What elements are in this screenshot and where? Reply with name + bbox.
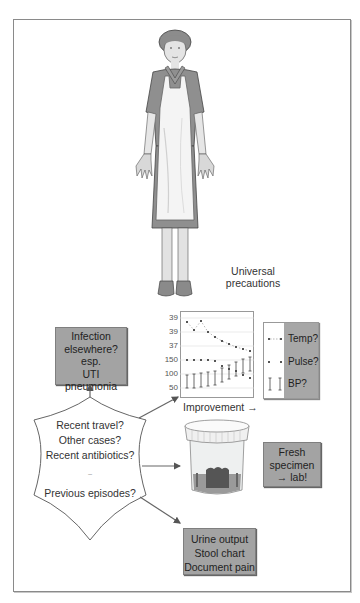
legend-item-pulse: Pulse? (264, 354, 318, 370)
box-line: → lab! (264, 471, 320, 484)
y-tick: 50 (158, 383, 178, 392)
chart-legend: Temp? Pulse? BP? (263, 322, 319, 399)
specimen-jar-illustration (182, 418, 252, 498)
specimen-box: Fresh specimen → lab! (263, 442, 321, 487)
box-line: Document pain (184, 560, 255, 574)
box-line: Urine output (184, 532, 255, 546)
connector-arrows (0, 0, 360, 603)
monitoring-box: Urine output Stool chart Document pain (183, 528, 256, 575)
center-questions: Recent travel? Other cases? Recent antib… (40, 418, 140, 501)
vitals-chart (180, 311, 255, 399)
question-line: Recent antibiotics? (40, 448, 140, 463)
legend-label: BP? (288, 378, 307, 389)
line-cross-marker-icon (267, 336, 283, 342)
box-line: Fresh (264, 446, 320, 459)
y-tick: 150 (158, 355, 178, 364)
dot-marker-icon (267, 359, 283, 365)
legend-label: Pulse? (288, 356, 319, 367)
question-line: Previous episodes? (40, 486, 140, 501)
legend-label: Temp? (288, 333, 318, 344)
separator-mark: ~ (40, 467, 140, 482)
error-bar-icon (267, 377, 283, 391)
chart-x-label: Improvement → (183, 401, 258, 413)
legend-item-temp: Temp? (264, 331, 318, 347)
box-line: specimen (264, 459, 320, 472)
y-tick: 37 (158, 341, 178, 350)
y-tick: 39 (158, 313, 178, 322)
question-line: Other cases? (40, 433, 140, 448)
y-tick: 100 (158, 369, 178, 378)
legend-item-bp: BP? (264, 376, 318, 392)
question-line: Recent travel? (40, 418, 140, 433)
y-tick: 39 (158, 327, 178, 336)
box-line: Stool chart (184, 546, 255, 560)
